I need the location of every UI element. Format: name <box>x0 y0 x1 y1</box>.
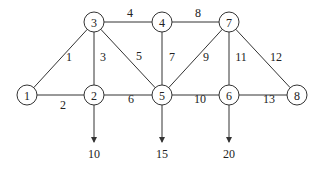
edge-1-3 <box>34 29 87 87</box>
edge-label: 12 <box>270 50 282 64</box>
edge-5-7 <box>169 29 222 87</box>
node-8: 8 <box>287 85 307 105</box>
node-label: 3 <box>91 16 97 30</box>
demands-layer: 101520 <box>88 105 235 161</box>
node-label: 2 <box>91 89 97 103</box>
edge-label: 8 <box>195 6 201 20</box>
node-2: 2 <box>84 85 104 105</box>
node-label: 8 <box>294 89 300 103</box>
network-diagram: 101520 12345678 12345678910111213 <box>0 0 317 171</box>
edge-3-5 <box>101 29 155 87</box>
node-6: 6 <box>219 85 239 105</box>
node-1: 1 <box>17 85 37 105</box>
edge-label: 3 <box>100 50 106 64</box>
edge-label: 10 <box>194 92 206 106</box>
edge-label: 11 <box>235 50 247 64</box>
node-4: 4 <box>152 12 172 32</box>
node-label: 1 <box>24 89 30 103</box>
node-5: 5 <box>152 85 172 105</box>
node-label: 5 <box>159 89 165 103</box>
node-7: 7 <box>219 12 239 32</box>
edge-label: 4 <box>127 6 133 20</box>
edge-label: 7 <box>169 50 175 64</box>
edge-label: 6 <box>128 92 134 106</box>
network-graph-svg: 101520 12345678 12345678910111213 <box>0 0 317 171</box>
edge-label: 13 <box>263 92 275 106</box>
node-label: 4 <box>159 16 165 30</box>
edge-label: 5 <box>136 49 142 63</box>
edge-label: 9 <box>203 50 209 64</box>
demand-label: 15 <box>156 147 168 161</box>
demand-label: 20 <box>223 147 235 161</box>
node-label: 7 <box>226 16 232 30</box>
edge-label: 2 <box>60 98 66 112</box>
edges-layer <box>34 22 290 95</box>
demand-label: 10 <box>88 147 100 161</box>
node-3: 3 <box>84 12 104 32</box>
edge-label: 1 <box>66 50 72 64</box>
node-label: 6 <box>226 89 232 103</box>
